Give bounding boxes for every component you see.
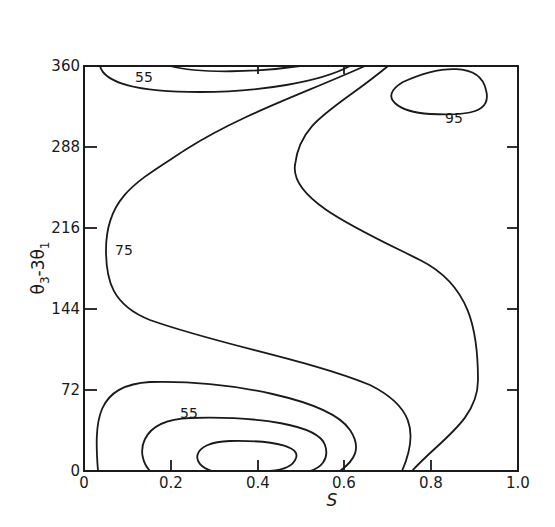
x-tick-1.0: 1.0 xyxy=(506,474,530,492)
plot-frame xyxy=(84,66,518,471)
contour-95 xyxy=(391,69,487,114)
y-tick-0: 0 xyxy=(70,462,80,480)
x-tick-0: 0 xyxy=(79,474,89,492)
y-tick-144: 144 xyxy=(51,300,80,318)
y-axis-ticks-right xyxy=(507,147,518,390)
contour-label-55-top: 55 xyxy=(135,69,153,85)
y-tick-labels: 0 72 144 216 288 360 xyxy=(51,57,80,480)
x-axis-ticks xyxy=(171,460,431,471)
y-tick-216: 216 xyxy=(51,219,80,237)
contour-bottom-inner xyxy=(197,441,296,471)
contour-bottom-outer xyxy=(97,382,356,471)
contour-chart: 55 95 75 55 0 0.2 0.4 0.6 0.8 1.0 S 0 72… xyxy=(0,0,555,527)
svg-text:θ3-3θ1: θ3-3θ1 xyxy=(28,241,52,294)
y-tick-72: 72 xyxy=(61,381,80,399)
y-tick-360: 360 xyxy=(51,57,80,75)
contour-label-75: 75 xyxy=(115,242,133,258)
x-axis-title: S xyxy=(327,490,338,510)
contour-label-55-bottom: 55 xyxy=(180,405,198,421)
y-axis-ticks-left xyxy=(84,147,97,390)
contour-lines xyxy=(97,66,487,471)
x-tick-0.4: 0.4 xyxy=(246,474,270,492)
y-axis-title: θ3-3θ1 xyxy=(28,241,52,294)
x-tick-0.2: 0.2 xyxy=(159,474,183,492)
x-tick-labels: 0 0.2 0.4 0.6 0.8 1.0 xyxy=(79,474,530,492)
contour-bottom-55 xyxy=(142,418,326,471)
y-tick-288: 288 xyxy=(51,138,80,156)
contour-label-95: 95 xyxy=(445,110,463,126)
contour-75 xyxy=(106,66,411,471)
x-tick-0.8: 0.8 xyxy=(419,474,443,492)
